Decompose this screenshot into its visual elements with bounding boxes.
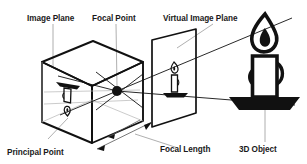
inverted-candle-body [64, 88, 71, 103]
label-principal-point: Principal Point [7, 148, 64, 157]
box-top-face [42, 41, 143, 86]
virtual-candle-holder [163, 93, 188, 98]
focal-length-dimension-arrow [97, 120, 152, 151]
candle-body [253, 56, 278, 97]
virtual-plane-outline [152, 29, 196, 127]
inverted-candle-image [56, 82, 80, 116]
label-focal-point: Focal Point [92, 14, 136, 23]
virtual-candle-body [172, 75, 178, 92]
diagram-canvas: Image Plane Focal Point Virtual Image Pl… [0, 0, 307, 164]
leader-focal-point [116, 24, 117, 86]
label-image-plane: Image Plane [27, 14, 75, 23]
label-virtual-image-plane: Virtual Image Plane [163, 14, 238, 23]
scene-candle-object [229, 14, 300, 110]
candle-holder-dish [229, 97, 300, 110]
label-3d-object: 3D Object [239, 145, 277, 154]
virtual-image-plane-quad [152, 29, 196, 127]
focal-length-line [97, 122, 152, 149]
virtual-candle-image [163, 62, 188, 98]
leader-virtual-image-plane [177, 24, 213, 48]
focal-point-dot [112, 86, 122, 96]
focal-length-arrowhead-right [144, 122, 152, 130]
label-focal-length: Focal Length [160, 145, 210, 154]
pinhole-camera-diagram: Image Plane Focal Point Virtual Image Pl… [0, 0, 307, 164]
